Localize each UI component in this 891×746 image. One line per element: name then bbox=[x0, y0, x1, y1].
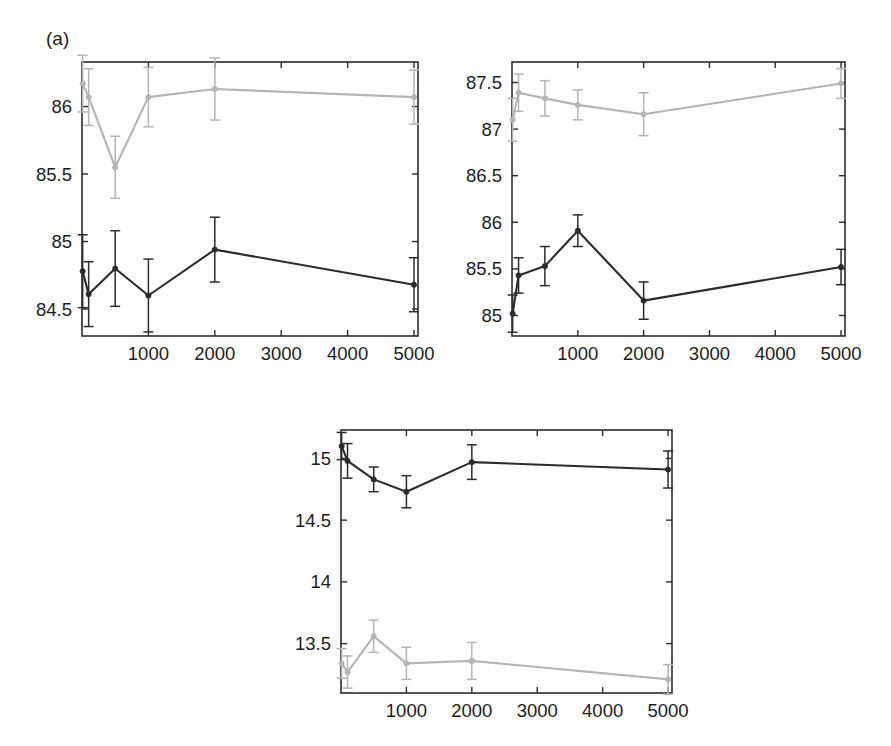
y-tick-label: 87.5 bbox=[466, 72, 502, 93]
series-line bbox=[342, 446, 668, 492]
y-tick-label: 84.5 bbox=[36, 299, 72, 320]
data-point bbox=[510, 311, 515, 316]
x-tick-label: 5000 bbox=[393, 343, 434, 364]
data-point bbox=[146, 94, 151, 99]
data-point bbox=[665, 467, 670, 472]
data-point bbox=[510, 117, 515, 122]
data-point bbox=[86, 94, 91, 99]
data-point bbox=[665, 677, 670, 682]
x-tick-label: 5000 bbox=[647, 700, 688, 721]
series-dark bbox=[337, 432, 673, 507]
y-tick-label: 85.5 bbox=[36, 164, 72, 185]
x-tick-label: 1000 bbox=[386, 700, 427, 721]
data-point bbox=[146, 293, 151, 298]
series-light bbox=[508, 69, 846, 142]
x-tick-label: 4000 bbox=[582, 700, 623, 721]
x-tick-label: 1000 bbox=[128, 343, 169, 364]
data-point bbox=[404, 489, 409, 494]
axis-box bbox=[341, 430, 672, 693]
data-point bbox=[542, 264, 547, 269]
y-tick-label: 85 bbox=[481, 305, 502, 326]
data-point bbox=[469, 658, 474, 663]
data-point bbox=[212, 86, 217, 91]
panel-label-a: (a) bbox=[46, 28, 69, 50]
data-point bbox=[404, 661, 409, 666]
series-light bbox=[78, 55, 419, 198]
x-tick-label: 4000 bbox=[755, 343, 796, 364]
y-tick-label: 14.5 bbox=[295, 510, 331, 531]
data-point bbox=[212, 247, 217, 252]
data-point bbox=[339, 661, 344, 666]
y-tick-label: 86 bbox=[51, 96, 72, 117]
y-tick-label: 86.5 bbox=[466, 165, 502, 186]
data-point bbox=[838, 264, 843, 269]
chart-panel-b: (b) 100020003000400050008585.58686.58787… bbox=[440, 0, 891, 380]
series-line bbox=[83, 84, 414, 168]
data-point bbox=[86, 292, 91, 297]
chart-svg-b: 100020003000400050008585.58686.58787.5 bbox=[440, 0, 891, 380]
data-point bbox=[80, 269, 85, 274]
series-line bbox=[83, 250, 414, 296]
data-point bbox=[516, 90, 521, 95]
series-line bbox=[513, 83, 841, 119]
x-tick-label: 2000 bbox=[623, 343, 664, 364]
data-point bbox=[641, 298, 646, 303]
x-tick-label: 5000 bbox=[820, 343, 861, 364]
x-tick-label: 1000 bbox=[557, 343, 598, 364]
data-point bbox=[411, 94, 416, 99]
y-tick-label: 15 bbox=[310, 448, 331, 469]
data-point bbox=[641, 112, 646, 117]
chart-panel-c: (c) 1000200030004000500013.51414.515 bbox=[260, 380, 720, 746]
data-point bbox=[345, 458, 350, 463]
data-point bbox=[371, 477, 376, 482]
chart-svg-c: 1000200030004000500013.51414.515 bbox=[260, 380, 720, 746]
series-dark bbox=[508, 215, 846, 332]
y-tick-label: 14 bbox=[310, 571, 331, 592]
data-point bbox=[80, 81, 85, 86]
chart-svg-a: 1000200030004000500084.58585.586 bbox=[0, 0, 450, 380]
x-tick-label: 3000 bbox=[689, 343, 730, 364]
y-tick-label: 85.5 bbox=[466, 258, 502, 279]
data-point bbox=[469, 460, 474, 465]
x-tick-label: 2000 bbox=[451, 700, 492, 721]
data-point bbox=[371, 634, 376, 639]
y-tick-label: 86 bbox=[481, 212, 502, 233]
data-point bbox=[113, 266, 118, 271]
x-tick-label: 4000 bbox=[327, 343, 368, 364]
data-point bbox=[345, 669, 350, 674]
x-tick-label: 3000 bbox=[517, 700, 558, 721]
series-line bbox=[513, 231, 841, 314]
data-point bbox=[542, 96, 547, 101]
x-tick-label: 3000 bbox=[261, 343, 302, 364]
data-point bbox=[113, 165, 118, 170]
data-point bbox=[411, 282, 416, 287]
data-point bbox=[575, 102, 580, 107]
series-light bbox=[337, 620, 673, 694]
x-tick-label: 2000 bbox=[194, 343, 235, 364]
series-line bbox=[342, 636, 668, 679]
y-tick-label: 87 bbox=[481, 119, 502, 140]
data-point bbox=[339, 443, 344, 448]
data-point bbox=[838, 81, 843, 86]
y-tick-label: 13.5 bbox=[295, 633, 331, 654]
y-tick-label: 85 bbox=[51, 231, 72, 252]
chart-panel-a: (a) 1000200030004000500084.58585.586 bbox=[0, 0, 450, 380]
series-dark bbox=[78, 217, 419, 332]
axis-box bbox=[82, 62, 418, 336]
data-point bbox=[516, 273, 521, 278]
data-point bbox=[575, 228, 580, 233]
figure-panels-abc: (a) 1000200030004000500084.58585.586 (b)… bbox=[0, 0, 891, 746]
